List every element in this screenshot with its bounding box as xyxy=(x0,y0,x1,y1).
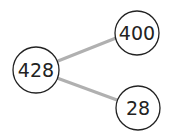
part-1-label: 400 xyxy=(119,22,155,44)
whole-node: 428 xyxy=(13,47,59,93)
connector-whole-to-part-1 xyxy=(58,38,116,61)
part-node-2: 28 xyxy=(116,86,160,130)
part-node-1: 400 xyxy=(115,11,159,55)
whole-label: 428 xyxy=(18,59,54,81)
connector-whole-to-part-2 xyxy=(57,78,117,100)
number-bond-diagram: 428 400 28 xyxy=(0,0,171,135)
part-2-label: 28 xyxy=(126,97,150,119)
